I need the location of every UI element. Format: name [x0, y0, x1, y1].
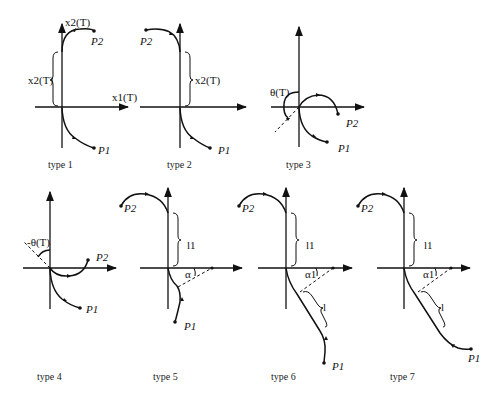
point-p1: [208, 146, 212, 150]
point-p2: [336, 112, 340, 116]
panel-type-6: l1 α1 l P2 P1 type 6: [237, 188, 352, 382]
angle-label: α1: [423, 268, 434, 280]
brace-label: x2(T): [195, 74, 220, 87]
brace-label: l1: [306, 239, 315, 251]
angle-label: -θ(T): [27, 236, 50, 249]
point-p2: [144, 28, 148, 32]
panel-type-3: θ(T) P2 P1 type 3: [270, 27, 364, 170]
p1-label: P1: [467, 352, 480, 364]
curve-lower: [404, 268, 471, 349]
p2-label: P2: [139, 35, 153, 47]
curve-upper: [62, 29, 94, 52]
caption: type 5: [153, 371, 178, 382]
brace-label: x2(T): [28, 74, 53, 87]
caption: type 2: [167, 159, 192, 170]
p1-label: P1: [97, 144, 110, 156]
angle-label: α1: [305, 268, 316, 280]
trajectory-types-figure: x2(T) x1(T) x2(T) P2 P1 type 1 x2(T) P2 …: [0, 0, 495, 396]
panel-type-4: -θ(T) P2 P1 type 4: [23, 192, 116, 382]
p2-label: P2: [241, 202, 255, 214]
caption: type 1: [48, 159, 73, 170]
direction-arrow-icon: [316, 93, 320, 97]
point-p1: [78, 306, 82, 310]
p1-label: P1: [183, 320, 196, 332]
caption: type 3: [286, 159, 311, 170]
brace-icon: [291, 213, 299, 266]
brace2-label: l: [323, 301, 326, 313]
p2-label: P2: [95, 251, 109, 263]
y-axis-label: x2(T): [65, 16, 90, 29]
p1-label: P1: [217, 144, 230, 156]
x-axis-label: x1(T): [112, 91, 137, 104]
caption: type 6: [271, 371, 296, 382]
point-p2: [92, 29, 96, 33]
panel-type-1: x2(T) x1(T) x2(T) P2 P1 type 1: [28, 16, 137, 170]
point-p2: [119, 204, 123, 208]
direction-arrow-icon: [324, 336, 328, 340]
p1-label: P1: [337, 142, 350, 154]
panel-type-2: x2(T) P2 P1 type 2: [139, 24, 246, 170]
point-p2: [86, 258, 90, 262]
point-p2: [356, 204, 360, 208]
point-p2: [237, 204, 241, 208]
brace-icon: [185, 52, 193, 106]
angle-arc: [435, 268, 436, 276]
p2-label: P2: [360, 202, 374, 214]
angle-label: θ(T): [270, 86, 290, 99]
angle-label: α: [185, 268, 191, 280]
point-p1: [92, 146, 96, 150]
brace-label: l1: [424, 239, 433, 251]
brace-icon: [409, 213, 417, 266]
p1-label: P1: [85, 303, 98, 315]
angle-arc: [194, 268, 195, 276]
angle-arc: [38, 250, 50, 257]
curve-upper: [299, 95, 338, 114]
direction-arrow-icon: [67, 274, 71, 278]
caption: type 7: [390, 371, 415, 382]
curve-lower: [286, 268, 325, 363]
point-p1: [325, 140, 329, 144]
brace2-label: l: [441, 301, 444, 313]
caption: type 4: [37, 371, 62, 382]
brace-label: l1: [187, 239, 196, 251]
panel-type-5: l1 α P2 P1 type 5: [119, 188, 242, 382]
point-p1: [469, 347, 473, 351]
curve-lower: [62, 108, 94, 148]
p2-label: P2: [123, 202, 137, 214]
brace-icon: [173, 213, 181, 266]
point-p1: [322, 361, 326, 365]
panel-type-7: l1 α1 l P2 P1 type 7: [356, 188, 480, 382]
curve-lower: [180, 108, 210, 148]
point-p1: [173, 320, 177, 324]
p2-label: P2: [90, 35, 104, 47]
direction-arrow-icon: [63, 298, 67, 301]
curve-lower: [168, 268, 180, 322]
p2-label: P2: [345, 117, 359, 129]
p1-label: P1: [331, 360, 344, 372]
direction-arrow-icon: [312, 134, 316, 137]
